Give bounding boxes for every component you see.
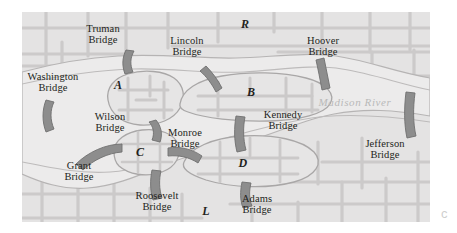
- river-label: Madison River: [319, 97, 392, 108]
- region-label-L: L: [202, 205, 209, 217]
- bridge-label-washington: WashingtonBridge: [28, 72, 79, 93]
- figure-root: TrumanBridge LincolnBridge HooverBridge …: [0, 0, 457, 233]
- bridge-label-hoover: HooverBridge: [307, 36, 339, 57]
- region-label-D: D: [239, 157, 248, 169]
- bridge-label-monroe: MonroeBridge: [168, 128, 202, 149]
- bridge-label-adams: AdamsBridge: [242, 194, 272, 215]
- region-label-A: A: [114, 79, 122, 91]
- bridge-label-roosevelt: RooseveltBridge: [136, 191, 179, 212]
- region-label-B: B: [247, 86, 255, 98]
- map-illustration: [22, 12, 430, 222]
- corner-mark: c: [441, 206, 448, 221]
- region-label-R: R: [241, 18, 249, 30]
- region-label-C: C: [136, 146, 144, 158]
- bridge-label-truman: TrumanBridge: [86, 24, 119, 45]
- bridge-label-wilson: WilsonBridge: [95, 112, 126, 133]
- bridge-label-kennedy: KennedyBridge: [264, 110, 303, 131]
- bridge-label-jefferson: JeffersonBridge: [365, 139, 404, 160]
- bridge-label-grant: GrantBridge: [64, 161, 93, 182]
- bridge-label-lincoln: LincolnBridge: [170, 36, 203, 57]
- map-frame: [22, 12, 430, 222]
